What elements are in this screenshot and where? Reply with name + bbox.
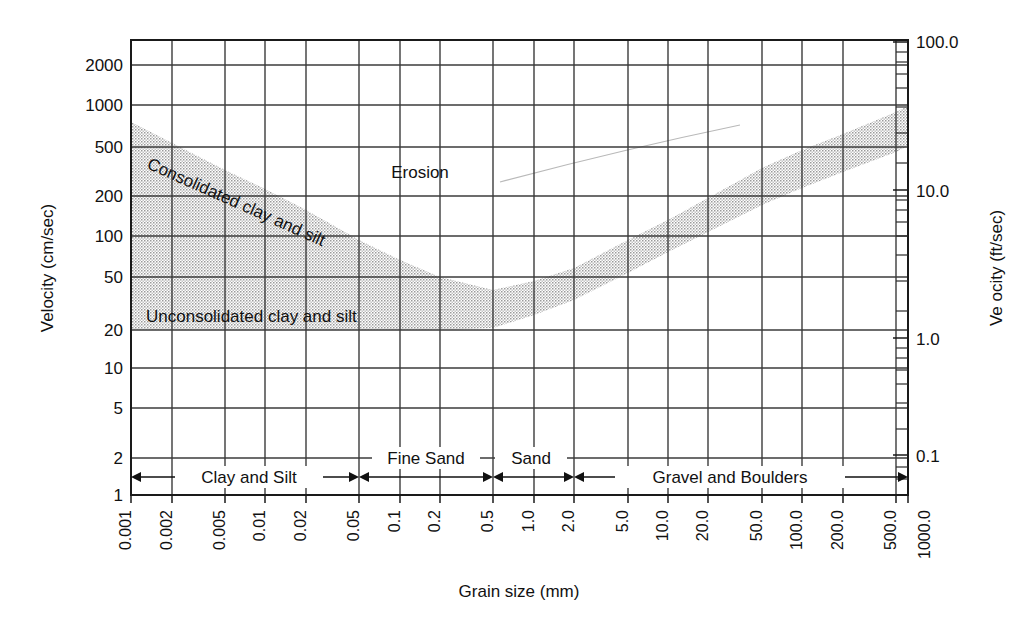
ytick-left-10: 10 xyxy=(104,359,123,378)
ytick-left-20: 20 xyxy=(104,321,123,340)
ytick-left-200: 200 xyxy=(95,187,123,206)
xtick-0.002: 0.002 xyxy=(158,510,175,550)
xtick-500.0: 500.0 xyxy=(882,510,899,550)
xtick-1.0: 1.0 xyxy=(520,510,537,532)
xtick-50.0: 50.0 xyxy=(748,510,765,541)
x-axis-title: Grain size (mm) xyxy=(459,582,580,601)
y-axis-right-title: Ve ocity (ft/sec) xyxy=(987,210,1006,326)
y-axis-left-title: Velocity (cm/sec) xyxy=(38,204,57,332)
xtick-0.2: 0.2 xyxy=(426,510,443,532)
xtick-2.0: 2.0 xyxy=(560,510,577,532)
ytick-left-5: 5 xyxy=(114,399,123,418)
xtick-0.02: 0.02 xyxy=(292,510,309,541)
xtick-20.0: 20.0 xyxy=(694,510,711,541)
ytick-right-100: 100.0 xyxy=(916,33,959,52)
ytick-right-0p1: 0.1 xyxy=(916,447,940,466)
xtick-0.001: 0.001 xyxy=(117,510,134,550)
ytick-left-500: 500 xyxy=(95,138,123,157)
xtick-200.0: 200.0 xyxy=(829,510,846,550)
category-label-fine-sand: Fine Sand xyxy=(387,449,465,468)
ytick-left-2: 2 xyxy=(114,449,123,468)
xtick-0.1: 0.1 xyxy=(386,510,403,532)
ytick-left-1: 1 xyxy=(114,486,123,505)
xtick-1000.0: 1000.0 xyxy=(916,510,933,559)
xtick-100.0: 100.0 xyxy=(788,510,805,550)
ytick-left-1000: 1000 xyxy=(85,96,123,115)
category-label-clay-and-silt: Clay and Silt xyxy=(201,468,297,487)
xtick-5.0: 5.0 xyxy=(614,510,631,532)
xtick-0.005: 0.005 xyxy=(211,510,228,550)
erosion-label: Erosion xyxy=(391,163,449,182)
ytick-right-10: 10.0 xyxy=(916,182,949,201)
ytick-left-100: 100 xyxy=(95,227,123,246)
xtick-0.05: 0.05 xyxy=(345,510,362,541)
ytick-left-50: 50 xyxy=(104,268,123,287)
ytick-right-1: 1.0 xyxy=(916,330,940,349)
category-label-sand: Sand xyxy=(511,449,551,468)
xtick-0.01: 0.01 xyxy=(251,510,268,541)
category-label-gravel-and-boulders: Gravel and Boulders xyxy=(653,468,808,487)
ytick-left-2000: 2000 xyxy=(85,56,123,75)
xtick-10.0: 10.0 xyxy=(654,510,671,541)
xtick-0.5: 0.5 xyxy=(479,510,496,532)
hjulstrom-diagram-figure: 2000 1000 500 200 100 50 20 10 5 2 1 xyxy=(0,0,1035,635)
unconsolidated-clay-silt-label: Unconsolidated clay and silt xyxy=(146,307,357,326)
